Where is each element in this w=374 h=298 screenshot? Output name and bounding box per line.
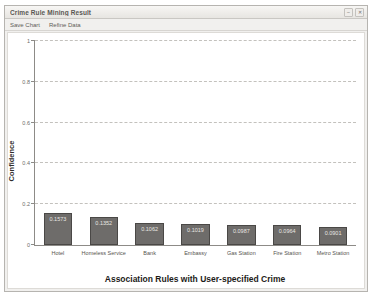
bar-value-label: 0.1019 bbox=[187, 227, 204, 233]
bar-group: 0.1062Bank bbox=[135, 41, 163, 245]
y-axis-title: Confidence bbox=[7, 140, 16, 181]
bar-value-label: 0.1352 bbox=[95, 220, 112, 226]
bar[interactable]: 0.1062 bbox=[135, 223, 163, 245]
bar[interactable]: 0.1573 bbox=[44, 213, 72, 245]
x-axis-title: Association Rules with User-specified Cr… bbox=[34, 274, 356, 284]
bar-value-label: 0.0987 bbox=[233, 228, 250, 234]
application-window: Crime Rule Mining Result – ✕ Save Chart … bbox=[4, 5, 368, 292]
close-button[interactable]: ✕ bbox=[355, 8, 364, 17]
bar-value-label: 0.1062 bbox=[141, 226, 158, 232]
chart-canvas: Confidence 00.20.40.60.81 0.1573Hotel0.1… bbox=[7, 32, 365, 289]
window-controls: – ✕ bbox=[344, 8, 364, 17]
y-axis-tick-label: 0.4 bbox=[22, 160, 30, 166]
bar-value-label: 0.0964 bbox=[279, 228, 296, 234]
bar-group: 0.0987Gas Station bbox=[227, 41, 255, 245]
y-axis-tick-label: 0 bbox=[27, 242, 30, 248]
bar-group: 0.1019Embassy bbox=[181, 41, 209, 245]
bar[interactable]: 0.0964 bbox=[273, 225, 301, 245]
menu-refine-data[interactable]: Refine Data bbox=[49, 22, 81, 28]
bar[interactable]: 0.1352 bbox=[90, 217, 118, 245]
bar-group: 0.0901Metro Station bbox=[319, 41, 347, 245]
bar-group: 0.1573Hotel bbox=[44, 41, 72, 245]
plot-area: 00.20.40.60.81 0.1573Hotel0.1352Homeless… bbox=[34, 41, 356, 246]
bar-group: 0.0964Fire Station bbox=[273, 41, 301, 245]
title-bar: Crime Rule Mining Result – ✕ bbox=[5, 6, 367, 19]
x-axis-category-label: Hotel bbox=[51, 250, 64, 256]
bar[interactable]: 0.0987 bbox=[227, 225, 255, 245]
x-axis-category-label: Bank bbox=[143, 250, 156, 256]
x-axis-category-label: Homeless Service bbox=[82, 250, 126, 256]
menu-bar: Save Chart Refine Data bbox=[5, 19, 367, 31]
menu-save-chart[interactable]: Save Chart bbox=[10, 22, 40, 28]
x-axis-category-label: Fire Station bbox=[273, 250, 301, 256]
x-axis-category-label: Metro Station bbox=[317, 250, 350, 256]
bars-layer: 0.1573Hotel0.1352Homeless Service0.1062B… bbox=[35, 41, 356, 245]
x-axis-category-label: Gas Station bbox=[227, 250, 256, 256]
window-title: Crime Rule Mining Result bbox=[10, 9, 344, 16]
bar[interactable]: 0.1019 bbox=[181, 224, 209, 245]
y-axis-tick-label: 1 bbox=[27, 38, 30, 44]
y-axis-tick-label: 0.2 bbox=[22, 201, 30, 207]
bar[interactable]: 0.0901 bbox=[319, 227, 347, 245]
y-axis-tick-label: 0.8 bbox=[22, 79, 30, 85]
minimize-button[interactable]: – bbox=[344, 8, 353, 17]
bar-value-label: 0.1573 bbox=[50, 216, 67, 222]
y-axis-tick-label: 0.6 bbox=[22, 120, 30, 126]
bar-group: 0.1352Homeless Service bbox=[90, 41, 118, 245]
bar-value-label: 0.0901 bbox=[325, 230, 342, 236]
x-axis-category-label: Embassy bbox=[184, 250, 207, 256]
